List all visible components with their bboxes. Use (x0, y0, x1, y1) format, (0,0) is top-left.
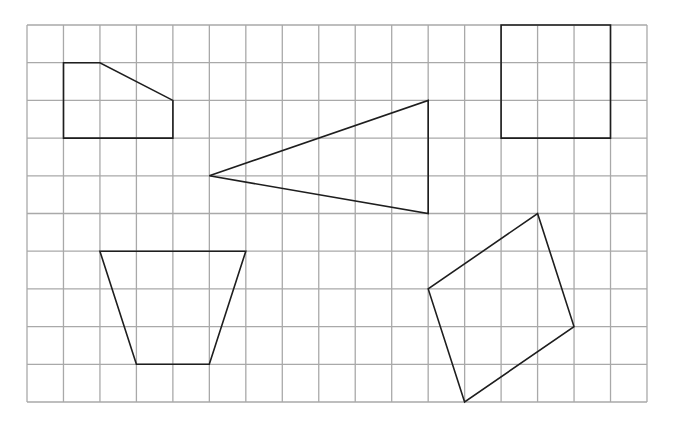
square-shape (501, 25, 610, 138)
grid-canvas (0, 0, 674, 421)
grid-lines (27, 25, 647, 402)
grid-diagram (0, 0, 674, 421)
